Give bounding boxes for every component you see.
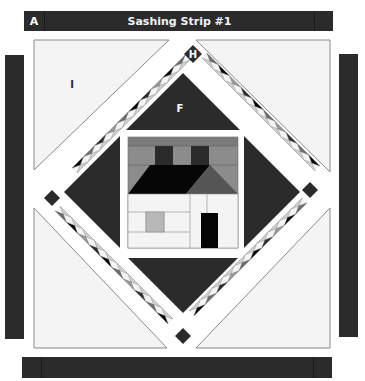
- house-block: [126, 134, 240, 250]
- house-wall: [128, 194, 238, 248]
- corner-square-bottom: [175, 328, 191, 344]
- chimney-left: [155, 146, 173, 165]
- corner-square-left: [44, 190, 60, 206]
- door: [201, 213, 218, 248]
- quilt-block-diagram: I F H: [0, 0, 365, 381]
- chimney-right: [191, 146, 209, 165]
- label-h: H: [189, 49, 197, 60]
- window: [146, 212, 164, 232]
- label-i: I: [70, 79, 74, 90]
- corner-square-right: [302, 182, 318, 198]
- label-f: F: [177, 103, 184, 114]
